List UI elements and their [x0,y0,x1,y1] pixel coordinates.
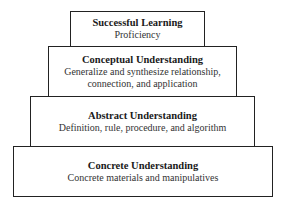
level-concrete-understanding: Concrete Understanding Concrete material… [13,146,273,197]
level-title: Successful Learning [92,17,182,29]
level-abstract-understanding: Abstract Understanding Definition, rule,… [30,96,255,147]
level-successful-learning: Successful Learning Proficiency [70,11,205,47]
level-description: Definition, rule, procedure, and algorit… [59,122,226,134]
level-description: Concrete materials and manipulatives [68,172,219,184]
level-description: connection, and application [87,78,197,90]
level-title: Abstract Understanding [88,110,197,122]
level-title: Concrete Understanding [88,160,198,172]
level-description: Generalize and synthesize relationship, [64,66,221,78]
level-description: Proficiency [114,29,160,41]
level-title: Conceptual Understanding [82,54,203,66]
level-conceptual-understanding: Conceptual Understanding Generalize and … [48,46,237,97]
